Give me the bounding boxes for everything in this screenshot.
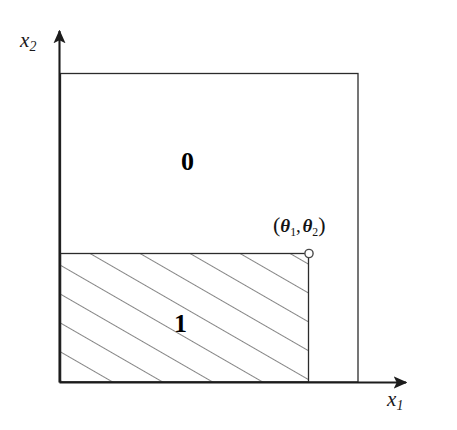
theta-2-symbol: θ (302, 215, 312, 236)
rectangle-concept-figure: x2 x1 0 1 (θ1, θ2) (0, 0, 457, 430)
theta-close-paren: ) (318, 212, 325, 237)
y-axis-label-subscript: 2 (30, 39, 37, 54)
theta-comma: , (296, 215, 301, 236)
y-axis-label: x2 (20, 30, 36, 51)
x-axis-label-subscript: 1 (397, 398, 404, 413)
region-label-zero: 0 (181, 149, 194, 175)
y-axis-label-base: x (20, 28, 29, 52)
x-axis-label: x1 (387, 389, 403, 410)
theta-2-subscript: 2 (312, 226, 318, 239)
theta-1-subscript: 1 (290, 226, 296, 239)
figure-canvas (0, 0, 457, 430)
theta-point-label: (θ1, θ2) (273, 214, 326, 236)
theta-point-marker (305, 249, 313, 257)
x-axis-label-base: x (387, 387, 396, 411)
theta-1-symbol: θ (280, 215, 290, 236)
region-label-one: 1 (174, 311, 187, 337)
